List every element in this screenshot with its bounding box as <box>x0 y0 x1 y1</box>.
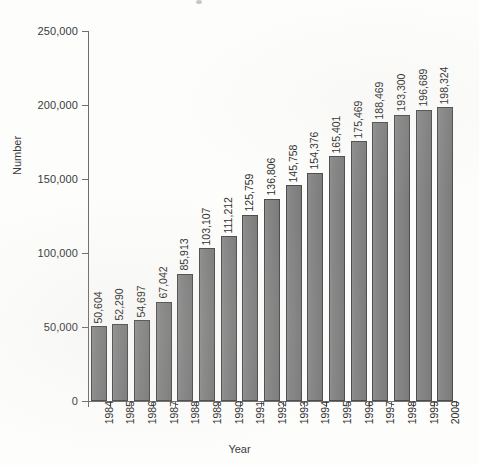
bar-group[interactable]: 175,4691996 <box>351 141 367 401</box>
x-axis-tick-label: 1994 <box>320 401 331 424</box>
bar-value-label: 165,401 <box>331 115 342 153</box>
bar-value-label: 136,806 <box>266 158 277 196</box>
y-axis-title: Number <box>12 136 23 175</box>
bar-value-label: 145,758 <box>288 144 299 182</box>
bar-value-label: 103,107 <box>201 207 212 245</box>
x-axis-tick-label: 1988 <box>190 401 201 424</box>
x-axis-tick-label: 1997 <box>385 401 396 424</box>
bar-value-label: 85,913 <box>179 239 190 271</box>
x-axis-tick-label: 1999 <box>428 401 439 424</box>
bar-group[interactable]: 136,8061992 <box>264 199 280 401</box>
bar-value-label: 193,300 <box>396 74 407 112</box>
x-axis-tick-label: 1991 <box>255 401 266 424</box>
bar-group[interactable]: 196,6891999 <box>416 110 432 401</box>
x-axis-tick-label: 1989 <box>212 401 223 424</box>
bar-group[interactable]: 165,4011995 <box>329 156 345 401</box>
bar[interactable] <box>416 110 432 401</box>
bar-group[interactable]: 67,0421987 <box>156 302 172 401</box>
bar-value-label: 67,042 <box>158 267 169 299</box>
bar-group[interactable]: 50,6041984 <box>91 326 107 401</box>
x-axis-tick-label: 1990 <box>233 401 244 424</box>
bar-value-label: 154,376 <box>309 132 320 170</box>
bar-value-label: 196,689 <box>418 69 429 107</box>
bar[interactable] <box>91 326 107 401</box>
bar[interactable] <box>177 274 193 401</box>
x-axis-tick-label: 1985 <box>125 401 136 424</box>
bar-group[interactable]: 103,1071989 <box>199 248 215 401</box>
bar[interactable] <box>112 324 128 401</box>
bar-group[interactable]: 188,4691997 <box>372 122 388 401</box>
x-axis-tick-label: 1984 <box>103 401 114 424</box>
x-axis-tick-label: 2000 <box>450 401 461 424</box>
x-axis-tick-label: 1987 <box>168 401 179 424</box>
x-axis-tick-label: 1998 <box>406 401 417 424</box>
bar-group[interactable]: 111,2121990 <box>221 236 237 401</box>
bar-group[interactable]: 198,3242000 <box>437 107 453 401</box>
x-axis-tick-label: 1992 <box>277 401 288 424</box>
bar-chart: 050,000100,000150,000200,000250,000 50,6… <box>0 0 479 465</box>
bar[interactable] <box>221 236 237 401</box>
x-axis-tick-label: 1996 <box>363 401 374 424</box>
bar[interactable] <box>372 122 388 401</box>
bar[interactable] <box>264 199 280 401</box>
bar-series: 50,604198452,290198554,697198667,0421987… <box>0 0 479 465</box>
bar-group[interactable]: 145,7581993 <box>286 185 302 401</box>
x-axis-tick-label: 1995 <box>341 401 352 424</box>
bar[interactable] <box>329 156 345 401</box>
x-axis-tick-label: 1993 <box>298 401 309 424</box>
bar[interactable] <box>394 115 410 401</box>
bar-group[interactable]: 193,3001998 <box>394 115 410 401</box>
bar-value-label: 111,212 <box>223 197 234 233</box>
bar-value-label: 175,469 <box>353 100 364 138</box>
bar[interactable] <box>307 173 323 401</box>
bar[interactable] <box>351 141 367 401</box>
x-axis-tick-label: 1986 <box>147 401 158 424</box>
bar[interactable] <box>199 248 215 401</box>
bar[interactable] <box>156 302 172 401</box>
bar[interactable] <box>242 215 258 401</box>
bar-group[interactable]: 154,3761994 <box>307 173 323 401</box>
bar[interactable] <box>286 185 302 401</box>
bar-group[interactable]: 125,7591991 <box>242 215 258 401</box>
x-axis-title: Year <box>0 444 479 455</box>
bar-group[interactable]: 52,2901985 <box>112 324 128 401</box>
bar[interactable] <box>134 320 150 401</box>
bar-value-label: 52,290 <box>114 289 125 321</box>
bar-group[interactable]: 54,6971986 <box>134 320 150 401</box>
bar-value-label: 125,759 <box>244 174 255 212</box>
bar-value-label: 188,469 <box>374 81 385 119</box>
bar-value-label: 198,324 <box>439 67 450 105</box>
bar-group[interactable]: 85,9131988 <box>177 274 193 401</box>
bar-value-label: 50,604 <box>93 291 104 323</box>
bar[interactable] <box>437 107 453 401</box>
bar-value-label: 54,697 <box>136 285 147 317</box>
